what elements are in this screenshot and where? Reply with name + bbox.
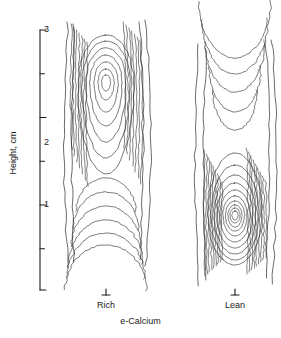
rich-contour-panel (63, 20, 151, 291)
ytick-label-3: 3 (44, 24, 49, 34)
contour-figure: 3 2 1 Height, cm Rich Lean e-Calcium (0, 0, 281, 338)
x-axis-title: e-Calcium (0, 316, 281, 326)
y-axis (40, 30, 46, 290)
ytick-label-2: 2 (44, 137, 49, 147)
lean-contour-panel (194, 0, 277, 286)
x-axis-ticks (102, 289, 239, 295)
ytick-label-1: 1 (44, 199, 49, 209)
category-label-lean: Lean (205, 300, 265, 310)
category-label-rich: Rich (76, 300, 136, 310)
y-axis-title: Height, cm (8, 123, 18, 183)
figure-canvas (0, 0, 281, 338)
